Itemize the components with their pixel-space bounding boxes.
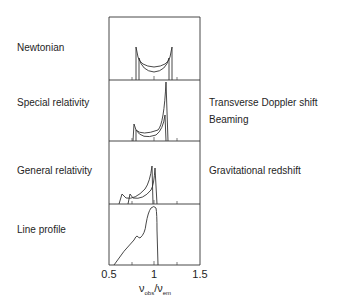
label-beaming: Beaming <box>209 115 248 125</box>
obs-subscript: obs <box>144 290 154 296</box>
x-tick-1.5: 1.5 <box>192 269 207 280</box>
label-special-relativity: Special relativity <box>17 98 89 108</box>
x-tick-0.5: 0.5 <box>101 269 116 280</box>
x-tick-1: 1 <box>151 269 157 280</box>
em-subscript: em <box>163 290 171 296</box>
special-relativity-profile <box>133 82 168 141</box>
x-axis-label: νobs/νem <box>139 283 171 296</box>
general-relativity-profile <box>119 166 157 204</box>
label-gravitational-redshift: Gravitational redshift <box>209 166 301 176</box>
label-transverse-doppler-shift: Transverse Doppler shift <box>209 98 318 108</box>
label-line-profile: Line profile <box>17 225 66 235</box>
plot-frame <box>109 17 200 265</box>
label-general-relativity: General relativity <box>17 166 92 176</box>
label-newtonian: Newtonian <box>17 43 64 53</box>
integrated-line-profile <box>114 207 158 266</box>
newtonian-profile <box>136 47 172 80</box>
